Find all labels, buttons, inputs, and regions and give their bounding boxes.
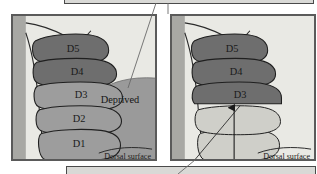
digit-D5-label-right: D5	[226, 43, 239, 54]
right-panel-drawing: D5 D4 D3 Dorsal surface	[171, 15, 315, 160]
right-panel: D5 D4 D3 Dorsal surface	[170, 14, 316, 161]
digit-D2-label: D2	[73, 113, 86, 124]
forearm-strip-right	[171, 15, 185, 160]
left-panel-drawing: D5 D4 D3 D2 D1 Deprived Dorsal surface	[12, 15, 156, 160]
dorsal-surface-label: Dorsal surface	[104, 152, 151, 160]
dorsal-surface-label-right: Dorsal surface	[263, 152, 310, 160]
deprived-label: Deprived	[101, 94, 140, 105]
adjacent-panel-frame-bottom	[66, 166, 316, 174]
figure-stage: D5 D4 D3 D2 D1 Deprived Dorsal surface	[0, 0, 317, 174]
left-panel: D5 D4 D3 D2 D1 Deprived Dorsal surface	[11, 14, 157, 161]
digit-D4-label-right: D4	[230, 66, 243, 77]
digit-D3-label-right: D3	[234, 89, 247, 100]
digit-D2-shape-right	[195, 106, 280, 135]
adjacent-panel-frame-top	[64, 0, 314, 4]
digit-D4-label: D4	[71, 66, 84, 77]
digit-D3-label: D3	[75, 89, 88, 100]
digit-D1-label: D1	[73, 138, 86, 149]
digit-D5-label: D5	[67, 43, 80, 54]
forearm-strip-left	[12, 15, 26, 160]
